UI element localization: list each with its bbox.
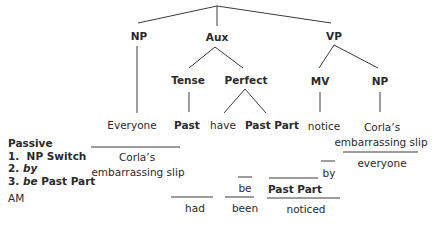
result-noticed: noticed	[286, 203, 325, 215]
inserted-be: be	[238, 182, 251, 194]
legend-step-3-italic: be	[23, 175, 38, 187]
leaf-embarrassing-slip: embarrassing slip	[334, 136, 427, 148]
legend-step-2-num: 2.	[8, 162, 19, 174]
leaf-past: Past	[174, 119, 200, 131]
branch-root-vp	[217, 6, 331, 23]
node-aux: Aux	[206, 31, 228, 43]
branch-perfect-have	[224, 89, 245, 113]
branch-vp-mv	[319, 45, 334, 68]
branch-vp-np	[334, 45, 378, 68]
moved-embarrassing-slip: embarrassing slip	[91, 166, 184, 178]
legend-step-1: 1. NP Switch	[8, 150, 86, 162]
legend-step-1-num: 1.	[8, 150, 19, 162]
legend-step-3-text: Past Part	[41, 175, 95, 187]
node-np-object: NP	[372, 75, 388, 87]
legend-title: Passive	[8, 137, 53, 149]
node-np: NP	[131, 30, 147, 42]
result-been: been	[232, 202, 258, 214]
legend-step-2: 2. by	[8, 162, 37, 174]
node-tense: Tense	[171, 74, 205, 86]
legend-step-3-num: 3.	[8, 175, 19, 187]
branch-root-np	[138, 6, 217, 23]
leaf-have: have	[210, 119, 236, 131]
branch-perfect-pastpart	[245, 89, 266, 113]
legend-step-3: 3. be Past Part	[8, 175, 95, 187]
node-mv: MV	[311, 75, 330, 87]
moved-corlas: Corla’s	[119, 151, 155, 163]
leaf-notice: notice	[308, 120, 340, 132]
result-had: had	[185, 202, 205, 214]
leaf-past-part: Past Part	[245, 119, 299, 131]
inserted-past-part: Past Part	[268, 183, 322, 195]
leaf-corlas: Corla’s	[364, 121, 400, 133]
node-perfect: Perfect	[225, 74, 268, 86]
branch-aux-perfect	[215, 47, 243, 68]
leaf-everyone: Everyone	[107, 119, 156, 131]
passive-tree-diagram: NP Aux VP Tense Perfect MV NP Everyone P…	[0, 0, 443, 227]
legend-step-2-text: by	[23, 162, 37, 174]
inserted-by: by	[323, 167, 336, 179]
legend-footer: AM	[8, 192, 24, 204]
node-vp: VP	[326, 30, 342, 42]
branch-aux-tense	[189, 47, 215, 68]
moved-everyone: everyone	[357, 157, 406, 169]
legend-step-1-text: NP Switch	[27, 150, 87, 162]
